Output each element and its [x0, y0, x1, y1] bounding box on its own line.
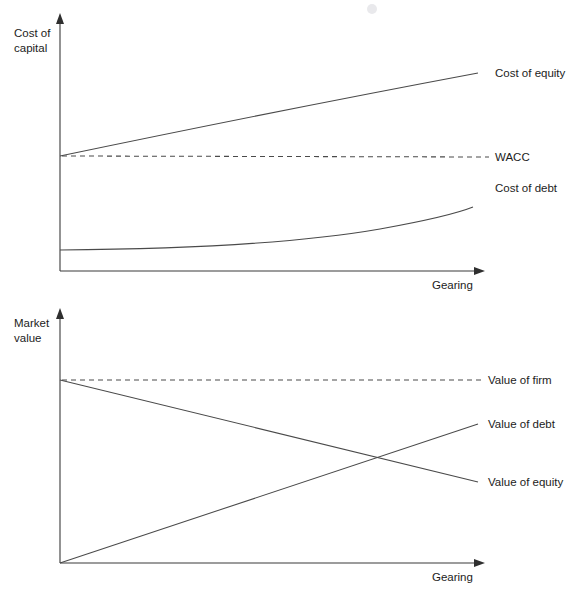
value-of-equity-line [60, 380, 478, 482]
y-axis-arrowhead-2 [56, 308, 64, 319]
series-label-cost-of-equity: Cost of equity [495, 67, 566, 79]
x-axis-arrowhead [474, 267, 485, 275]
y-axis-arrowhead [56, 13, 64, 24]
y-axis-label-2-line1: Market [14, 317, 50, 329]
capital-structure-diagram: Cost of capital Gearing Cost of equity W… [0, 0, 576, 590]
cost-of-capital-chart: Cost of capital Gearing Cost of equity W… [14, 13, 566, 291]
x-axis-arrowhead-2 [474, 559, 485, 567]
series-label-wacc: WACC [495, 151, 530, 163]
y-axis-label-2-line2: value [14, 332, 42, 344]
wacc-line [62, 156, 489, 157]
diagram-page: Cost of capital Gearing Cost of equity W… [0, 0, 576, 590]
series-label-cost-of-debt: Cost of debt [495, 182, 558, 194]
series-label-value-of-equity: Value of equity [488, 476, 563, 488]
market-value-chart: Market value Gearing Value of firm Value… [14, 308, 563, 583]
series-label-value-of-debt: Value of debt [488, 418, 556, 430]
y-axis-label-line2: capital [14, 42, 47, 54]
y-axis-label-line1: Cost of [14, 27, 51, 39]
cost-of-equity-line [60, 73, 478, 156]
x-axis-label: Gearing [432, 279, 473, 291]
cost-of-debt-curve [60, 207, 473, 250]
x-axis-label-2: Gearing [432, 571, 473, 583]
value-of-debt-line [60, 424, 478, 563]
series-label-value-of-firm: Value of firm [488, 374, 552, 386]
scan-artifact [367, 4, 377, 14]
